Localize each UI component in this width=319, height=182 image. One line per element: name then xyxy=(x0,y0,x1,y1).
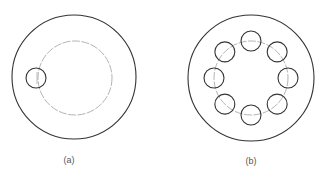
figure-b xyxy=(188,15,314,141)
ring-circle-b xyxy=(214,41,288,115)
ring-circle-a xyxy=(38,41,112,115)
outer-circle-a xyxy=(12,15,136,139)
figure-label-a: (a) xyxy=(64,155,75,165)
figure-a xyxy=(12,15,136,139)
diagram-canvas xyxy=(0,0,319,182)
small-circle-a xyxy=(26,68,46,88)
figure-label-b: (b) xyxy=(246,156,257,166)
outer-circle-b xyxy=(188,15,314,141)
